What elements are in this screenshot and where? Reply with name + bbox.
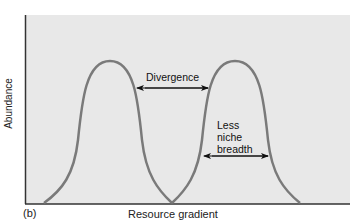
less-niche-breadth-label: Less niche breadth — [217, 119, 253, 155]
diagram-graphics — [0, 0, 350, 223]
y-axis-label: Abundance — [3, 74, 14, 134]
panel-label: (b) — [23, 207, 36, 219]
x-axis-label: Resource gradient — [128, 208, 218, 220]
divergence-label: Divergence — [146, 71, 199, 83]
label-line-breadth: breadth — [217, 143, 253, 155]
label-line-niche: niche — [217, 131, 253, 143]
label-line-less: Less — [217, 119, 253, 131]
